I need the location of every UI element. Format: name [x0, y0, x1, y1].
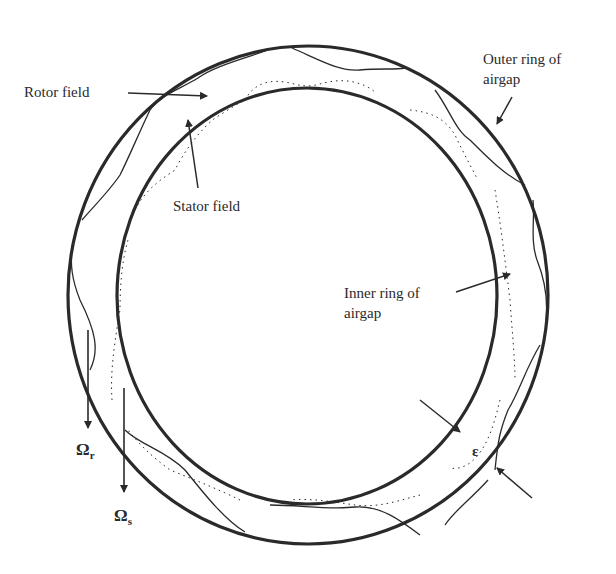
- gap-outer-arrow: [497, 468, 532, 498]
- outer-ring-label-line2: airgap: [483, 70, 520, 88]
- omega-r-label: Ωr: [76, 440, 95, 461]
- omega-s-symbol: Ω: [114, 506, 128, 525]
- omega-s-label: Ωs: [114, 506, 132, 527]
- outer-ring-label-line1: Outer ring of: [483, 50, 561, 68]
- inner-ring-label-line1: Inner ring of: [344, 284, 420, 302]
- outer-ring: [68, 46, 548, 544]
- outer-ring-arrow: [497, 97, 512, 124]
- omega-r-symbol: Ω: [76, 440, 90, 459]
- stator-field-label: Stator field: [173, 197, 240, 215]
- airgap-field-diagram: [0, 0, 616, 574]
- epsilon-label: ε: [472, 443, 478, 460]
- gap-inner-arrow: [420, 400, 460, 432]
- inner-ring-arrow: [456, 274, 510, 292]
- rotor-field-label: Rotor field: [24, 83, 89, 101]
- inner-ring: [117, 88, 497, 504]
- omega-r-subscript: r: [90, 449, 95, 461]
- inner-ring-label-line2: airgap: [344, 304, 381, 322]
- omega-s-subscript: s: [128, 515, 132, 527]
- rotor-field-curve: [71, 48, 546, 535]
